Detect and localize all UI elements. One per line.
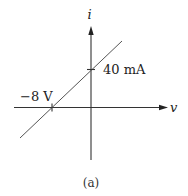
current-intercept-label: 40 mA	[103, 62, 146, 77]
v-axis-label: v	[170, 100, 178, 115]
figure-caption: (a)	[83, 176, 100, 190]
v-axis-arrow-icon	[159, 105, 168, 110]
i-axis-label: i	[88, 7, 92, 22]
i-axis-arrow-icon	[88, 26, 93, 35]
iv-characteristic-diagram: i v 40 mA −8 V (a)	[0, 0, 188, 196]
voltage-intercept-label: −8 V	[20, 89, 53, 104]
